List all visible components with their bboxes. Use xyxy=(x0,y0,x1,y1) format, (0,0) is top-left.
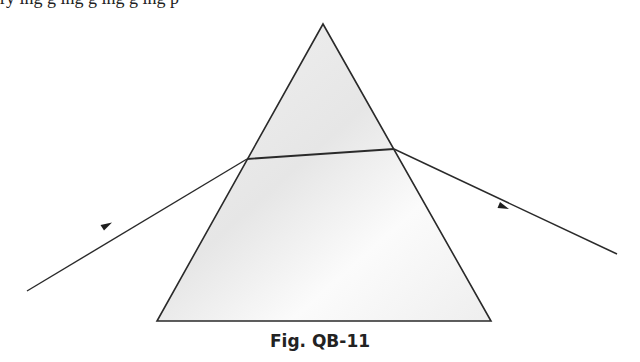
prism xyxy=(157,24,491,321)
incident-arrow-icon xyxy=(101,223,113,231)
figure-caption: Fig. QB-11 xyxy=(0,331,640,351)
prism-refraction-diagram xyxy=(0,0,640,362)
